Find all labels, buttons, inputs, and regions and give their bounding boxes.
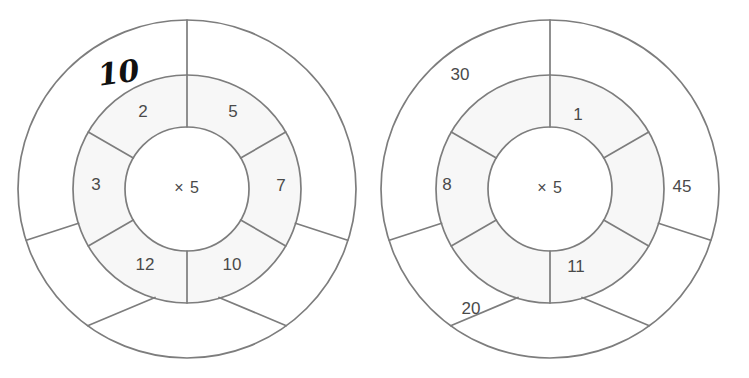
- cell-right-mid-8: 8: [442, 175, 451, 194]
- outer-divider-72: [295, 223, 347, 240]
- cell-left-mid-5: 5: [228, 102, 237, 121]
- outer-divider-144: [219, 297, 286, 325]
- center-label-left: × 5: [174, 179, 200, 196]
- cell-left-mid-2: 2: [138, 102, 147, 121]
- cell-left-mid-7: 7: [276, 176, 285, 195]
- outer-divider-288: [26, 223, 78, 240]
- cell-right-mid-11: 11: [567, 257, 585, 276]
- cell-right-outer-20: 20: [462, 299, 481, 318]
- cell-right-outer-45: 45: [673, 177, 692, 196]
- cell-left-mid-3: 3: [91, 175, 100, 194]
- worksheet-canvas: 2 5 7 10 12 3 10 × 5 1 11 8 30 45 2: [0, 0, 749, 378]
- outer-divider-216: [88, 297, 155, 325]
- multiplication-wheel-left[interactable]: 2 5 7 10 12 3 10 × 5: [0, 0, 375, 378]
- cell-left-mid-12: 12: [136, 255, 155, 274]
- cell-left-mid-10: 10: [223, 255, 242, 274]
- outer-divider-288: [389, 223, 441, 240]
- cell-right-outer-30: 30: [451, 65, 470, 84]
- outer-divider-144: [582, 297, 649, 325]
- center-label-right: × 5: [537, 179, 563, 196]
- cell-left-outer-10-handwritten: 10: [96, 52, 142, 92]
- cell-right-mid-1: 1: [573, 105, 582, 124]
- outer-divider-72: [658, 223, 710, 240]
- multiplication-wheel-right[interactable]: 1 11 8 30 45 20 × 5: [363, 0, 738, 378]
